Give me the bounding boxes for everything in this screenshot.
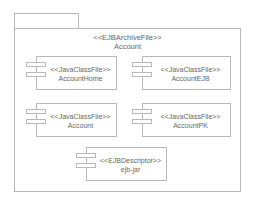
component-account-home[interactable]: <<JavaClassFile>> AccountHome (36, 56, 117, 90)
component-account-ejb[interactable]: <<JavaClassFile>> AccountEJB (142, 56, 231, 90)
component-port-icon (132, 119, 152, 124)
component-account[interactable]: <<JavaClassFile>> Account (36, 103, 117, 137)
component-name: Account (45, 121, 116, 130)
package-stereotype: <<EJBArchiveFile>> (15, 33, 240, 42)
component-port-icon (76, 163, 96, 168)
component-port-icon (132, 109, 152, 114)
component-port-icon (76, 153, 96, 158)
component-name: ejb-jar (95, 165, 166, 174)
component-stereotype: <<JavaClassFile>> (45, 112, 116, 121)
component-port-icon (26, 119, 46, 124)
component-port-icon (132, 72, 152, 77)
component-port-icon (26, 72, 46, 77)
component-ejb-jar[interactable]: <<EJBDescriptor>> ejb-jar (86, 147, 167, 181)
component-stereotype: <<JavaClassFile>> (151, 65, 230, 74)
component-port-icon (132, 62, 152, 67)
component-stereotype: <<JavaClassFile>> (45, 65, 116, 74)
component-name: AccountEJB (151, 74, 230, 83)
component-name: AccountHome (45, 74, 116, 83)
component-name: AccountPK (151, 121, 230, 130)
component-port-icon (26, 62, 46, 67)
component-port-icon (26, 109, 46, 114)
component-account-pk[interactable]: <<JavaClassFile>> AccountPK (142, 103, 231, 137)
package-name: Account (15, 42, 240, 51)
component-stereotype: <<EJBDescriptor>> (95, 156, 166, 165)
package-tab (14, 13, 79, 28)
component-stereotype: <<JavaClassFile>> (151, 112, 230, 121)
